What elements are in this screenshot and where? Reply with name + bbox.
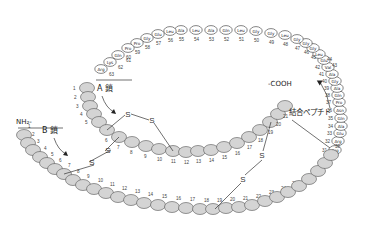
svg-text:Asn: Asn bbox=[336, 108, 344, 113]
a-chain-residue: 16 bbox=[230, 138, 245, 157]
residue-ala: Ala34 bbox=[328, 122, 347, 131]
svg-text:59: 59 bbox=[135, 50, 141, 55]
a-chain-residue: 11 bbox=[166, 146, 181, 165]
svg-text:Leu: Leu bbox=[237, 28, 245, 33]
svg-text:Ala: Ala bbox=[338, 124, 345, 129]
svg-text:Pro: Pro bbox=[134, 41, 141, 46]
residue-leu: Leu54 bbox=[190, 26, 202, 42]
svg-text:12: 12 bbox=[184, 160, 190, 165]
residue-leu: Leu48 bbox=[279, 31, 291, 47]
svg-text:Gly: Gly bbox=[144, 36, 151, 41]
svg-text:18: 18 bbox=[258, 138, 264, 143]
svg-text:Arg: Arg bbox=[97, 67, 105, 72]
svg-text:Gly: Gly bbox=[294, 37, 301, 42]
svg-text:57: 57 bbox=[156, 41, 162, 46]
a-chain-residue: 9 bbox=[139, 141, 154, 160]
svg-text:7: 7 bbox=[117, 145, 120, 150]
svg-text:4: 4 bbox=[80, 112, 83, 117]
svg-text:Val: Val bbox=[325, 65, 331, 70]
a-chain-residue: 15 bbox=[217, 142, 232, 161]
disulfide-a7-b7: SS bbox=[64, 137, 119, 174]
svg-text:Leu: Leu bbox=[192, 28, 200, 33]
svg-text:14: 14 bbox=[209, 158, 215, 163]
a-chain-residue: 10 bbox=[152, 144, 167, 163]
svg-text:8: 8 bbox=[130, 150, 133, 155]
svg-text:62: 62 bbox=[118, 65, 124, 70]
a-chain-residue: 6 bbox=[100, 125, 115, 144]
svg-text:Leu: Leu bbox=[315, 52, 323, 57]
residue-ala: Ala55 bbox=[175, 26, 187, 42]
svg-text:S: S bbox=[125, 110, 130, 119]
svg-text:12: 12 bbox=[122, 186, 128, 191]
svg-text:9: 9 bbox=[144, 154, 147, 159]
svg-text:3: 3 bbox=[76, 104, 79, 109]
svg-text:34: 34 bbox=[328, 124, 334, 129]
b-chain-arrow-icon bbox=[54, 138, 66, 154]
svg-text:Pro: Pro bbox=[125, 46, 132, 51]
svg-text:61: 61 bbox=[126, 58, 132, 63]
svg-text:Leu: Leu bbox=[166, 29, 174, 34]
svg-text:20: 20 bbox=[276, 122, 282, 127]
svg-text:46: 46 bbox=[304, 50, 310, 55]
a-chain-label: A 鎖 bbox=[97, 83, 113, 93]
svg-text:5: 5 bbox=[85, 120, 88, 125]
svg-text:2: 2 bbox=[32, 132, 35, 137]
svg-text:Gly: Gly bbox=[332, 79, 339, 84]
svg-text:Gln: Gln bbox=[337, 116, 344, 121]
svg-text:48: 48 bbox=[283, 42, 289, 47]
svg-text:Lys: Lys bbox=[107, 60, 114, 65]
svg-text:50: 50 bbox=[254, 38, 260, 43]
svg-text:44: 44 bbox=[327, 57, 333, 62]
residue-leu: Leu56 bbox=[164, 27, 176, 43]
svg-text:10: 10 bbox=[157, 157, 163, 162]
svg-text:55: 55 bbox=[179, 37, 185, 42]
svg-text:Ala: Ala bbox=[334, 86, 341, 91]
a-chain-residue: 13 bbox=[191, 146, 206, 165]
a-chain-arrowhead-icon bbox=[111, 109, 116, 114]
svg-text:1: 1 bbox=[73, 86, 76, 91]
svg-text:52: 52 bbox=[224, 37, 230, 42]
svg-text:43: 43 bbox=[332, 63, 338, 68]
svg-text:Gln: Gln bbox=[222, 28, 229, 33]
svg-text:Gln: Gln bbox=[334, 93, 341, 98]
svg-text:S: S bbox=[149, 116, 154, 125]
residue-leu: Leu51 bbox=[235, 26, 247, 42]
svg-text:Ala: Ala bbox=[178, 28, 185, 33]
svg-text:6: 6 bbox=[59, 158, 62, 163]
svg-text:Gly: Gly bbox=[268, 31, 275, 36]
svg-text:2: 2 bbox=[74, 95, 77, 100]
svg-text:40: 40 bbox=[322, 79, 328, 84]
c-peptide-chain: Arg31Arg32Glu33Ala34Gln35Asn36Pro37Gln38… bbox=[95, 26, 347, 155]
svg-text:18: 18 bbox=[204, 198, 210, 203]
svg-text:Leu: Leu bbox=[281, 33, 289, 38]
svg-text:S: S bbox=[89, 158, 94, 167]
c-peptide-label: 結合ペプチド bbox=[289, 107, 331, 117]
nh2-label: NH₂- bbox=[16, 118, 32, 126]
svg-text:11: 11 bbox=[171, 159, 176, 164]
svg-text:Ala: Ala bbox=[208, 28, 215, 33]
residue-glu: Glu57 bbox=[152, 30, 164, 46]
a-chain-residue: 17 bbox=[242, 132, 257, 151]
svg-text:51: 51 bbox=[239, 37, 245, 42]
svg-text:56: 56 bbox=[168, 38, 174, 43]
c-peptide-pointer-line bbox=[292, 120, 330, 148]
svg-text:Ala: Ala bbox=[329, 72, 336, 77]
svg-text:Gln: Gln bbox=[114, 53, 121, 58]
residue-gly: Gly50 bbox=[250, 27, 262, 43]
svg-text:15: 15 bbox=[162, 194, 168, 199]
svg-text:Gly: Gly bbox=[253, 29, 260, 34]
svg-text:47: 47 bbox=[295, 46, 301, 51]
svg-text:17: 17 bbox=[190, 197, 196, 202]
svg-text:13: 13 bbox=[135, 189, 141, 194]
svg-text:15: 15 bbox=[222, 155, 228, 160]
svg-text:4: 4 bbox=[44, 146, 47, 151]
svg-text:7: 7 bbox=[68, 163, 71, 168]
svg-text:3: 3 bbox=[37, 139, 40, 144]
svg-text:21: 21 bbox=[283, 114, 289, 119]
svg-text:32: 32 bbox=[325, 139, 331, 144]
svg-text:13: 13 bbox=[196, 159, 202, 164]
svg-text:S: S bbox=[240, 175, 245, 184]
b-chain: 1234567891011121314151617181920212223242… bbox=[17, 124, 341, 215]
a-chain-residue: 7 bbox=[112, 132, 127, 151]
svg-text:16: 16 bbox=[235, 151, 241, 156]
